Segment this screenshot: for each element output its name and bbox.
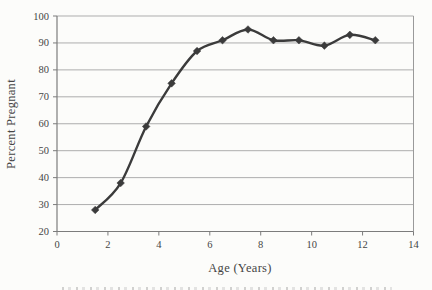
y-tick-label: 30 <box>39 199 50 210</box>
x-tick-label: 0 <box>54 239 59 250</box>
y-tick-label: 100 <box>33 11 49 22</box>
x-tick-label: 12 <box>357 239 368 250</box>
y-tick-label: 50 <box>39 145 50 156</box>
x-tick-label: 4 <box>156 239 162 250</box>
y-tick-label: 40 <box>39 172 50 183</box>
y-tick-label: 70 <box>39 91 50 102</box>
y-tick-label: 20 <box>39 226 50 237</box>
x-tick-label: 6 <box>207 239 212 250</box>
data-point-marker <box>244 26 252 34</box>
x-tick-label: 2 <box>105 239 110 250</box>
y-tick-label: 90 <box>39 37 50 48</box>
y-tick-label: 60 <box>39 118 50 129</box>
x-tick-label: 10 <box>306 239 317 250</box>
pregnancy-rate-chart: 203040506070809010002468101214 Percent P… <box>0 0 432 290</box>
series-line <box>95 29 375 209</box>
x-tick-label: 8 <box>258 239 263 250</box>
chart-plot-area: 203040506070809010002468101214 <box>0 0 432 290</box>
x-axis-title: Age (Years) <box>160 261 320 277</box>
data-point-marker <box>346 31 354 39</box>
y-tick-label: 80 <box>39 64 50 75</box>
y-axis-title: Percent Pregnant <box>4 44 20 204</box>
x-tick-label: 14 <box>408 239 419 250</box>
